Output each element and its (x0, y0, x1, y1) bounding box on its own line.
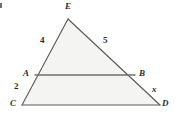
label-side-ac: 2 (14, 82, 19, 91)
label-vertex-a: A (23, 69, 29, 78)
label-side-ea: 4 (40, 36, 45, 45)
label-vertex-c: C (10, 99, 16, 108)
label-side-eb: 5 (103, 36, 108, 45)
triangle-fill (22, 19, 160, 105)
label-side-bd-unknown: x (152, 85, 157, 94)
triangle-diagram-svg (0, 0, 180, 122)
label-vertex-e: E (65, 2, 71, 11)
geometry-figure: E 4 5 A B 2 x C D (0, 0, 180, 122)
label-vertex-b: B (139, 69, 145, 78)
label-vertex-d: D (162, 99, 169, 108)
